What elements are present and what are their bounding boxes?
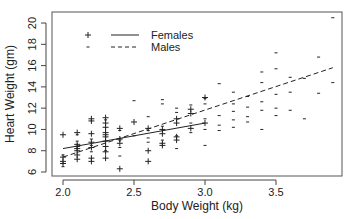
data-points [60, 18, 334, 172]
female-point-marker [145, 148, 151, 154]
males-fit-line [63, 68, 333, 157]
y-tick-label: 12 [26, 102, 38, 114]
x-tick-label: 2.5 [126, 186, 141, 198]
y-tick-label: 10 [26, 123, 38, 135]
plot-frame [52, 12, 342, 176]
legend-label: Females [151, 29, 194, 41]
female-point-marker [117, 136, 123, 142]
y-axis: 68101214161820 [26, 17, 46, 175]
regression-lines [63, 68, 333, 157]
female-point-marker [88, 155, 94, 161]
female-point-marker [188, 106, 194, 112]
x-axis-label: Body Weight (kg) [151, 199, 243, 213]
y-tick-label: 16 [26, 59, 38, 71]
x-tick-label: 3.0 [197, 186, 212, 198]
female-point-marker [60, 132, 66, 138]
x-axis: 2.02.53.03.5 [55, 180, 283, 198]
x-tick-label: 2.0 [55, 186, 70, 198]
female-point-marker [202, 120, 208, 126]
plus-marker-icon [85, 32, 91, 38]
female-point-marker [145, 158, 151, 164]
female-point-marker [103, 149, 109, 155]
female-point-marker [88, 131, 94, 137]
y-tick-label: 18 [26, 38, 38, 50]
female-point-marker [174, 116, 180, 122]
legend-item-males: Males [87, 41, 181, 53]
female-point-marker [174, 137, 180, 143]
scatter-chart: 68101214161820 2.02.53.03.5 Heart Weight… [0, 0, 359, 219]
legend-item-females: Females [85, 29, 194, 41]
y-tick-label: 20 [26, 17, 38, 29]
y-tick-label: 6 [26, 169, 38, 175]
female-point-marker [103, 155, 109, 161]
female-point-marker [103, 143, 109, 149]
y-tick-label: 8 [26, 148, 38, 154]
y-axis-label: Heart Weight (gm) [3, 45, 17, 143]
female-point-marker [131, 119, 137, 125]
legend: FemalesMales [85, 29, 194, 53]
legend-label: Males [151, 41, 181, 53]
female-point-marker [103, 120, 109, 126]
y-tick-label: 14 [26, 81, 38, 93]
x-tick-label: 3.5 [268, 186, 283, 198]
female-point-marker [117, 166, 123, 172]
female-point-marker [202, 95, 208, 101]
